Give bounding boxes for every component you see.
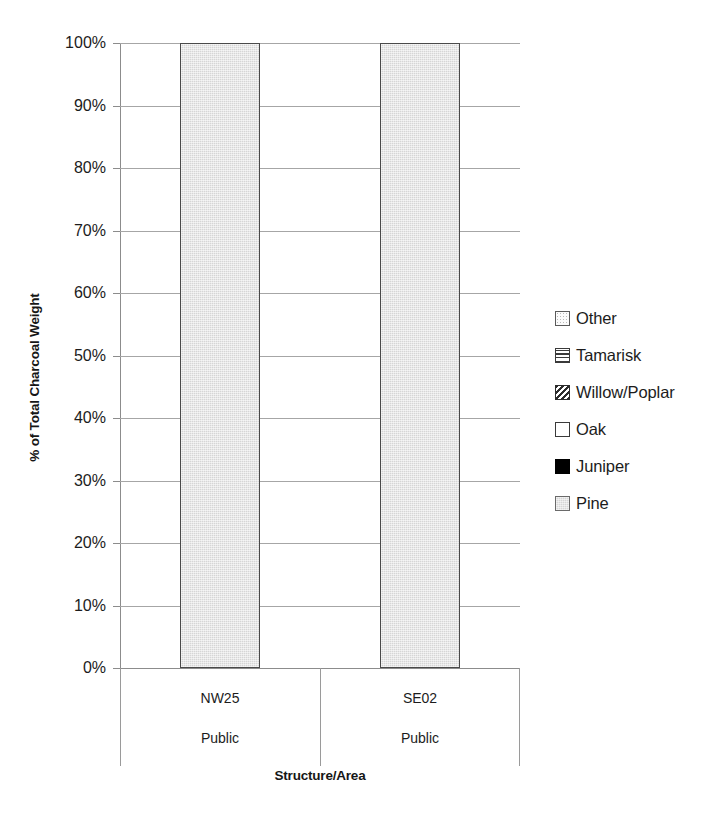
y-axis-tick-mark: [113, 668, 120, 669]
legend-label: Oak: [576, 420, 606, 439]
bar-segment: [380, 43, 460, 668]
y-axis-tick-mark: [113, 543, 120, 544]
y-axis-tick-mark: [113, 418, 120, 419]
legend-label: Other: [576, 309, 617, 328]
legend-item-willow-poplar[interactable]: Willow/Poplar: [555, 374, 675, 411]
y-axis-tick-mark: [113, 606, 120, 607]
y-axis-tick-mark: [113, 293, 120, 294]
y-axis-title: % of Total Charcoal Weight: [27, 258, 42, 498]
category-group: NW25Public: [120, 668, 320, 766]
y-axis-tick-label: 20%: [42, 534, 106, 552]
x-axis-title: Structure/Area: [120, 768, 520, 783]
legend-item-juniper[interactable]: Juniper: [555, 448, 675, 485]
legend-swatch-icon: [555, 496, 570, 511]
category-divider: [320, 668, 321, 766]
legend-label: Pine: [576, 494, 609, 513]
category-label-secondary: Public: [320, 730, 520, 746]
y-axis-tick-label: 30%: [42, 472, 106, 490]
legend-item-oak[interactable]: Oak: [555, 411, 675, 448]
legend-item-tamarisk[interactable]: Tamarisk: [555, 337, 675, 374]
y-axis-tick-label: 10%: [42, 597, 106, 615]
category-label-primary: NW25: [120, 690, 320, 706]
y-axis-tick-label: 100%: [42, 34, 106, 52]
y-axis-tick-mark: [113, 481, 120, 482]
legend-label: Juniper: [576, 457, 629, 476]
bar-segment: [180, 43, 260, 668]
y-axis-tick-mark: [113, 43, 120, 44]
y-axis-tick-label: 0%: [42, 659, 106, 677]
y-axis-tick-label: 50%: [42, 347, 106, 365]
y-axis-tick-mark: [113, 106, 120, 107]
legend-item-pine[interactable]: Pine: [555, 485, 675, 522]
bar-chart: % of Total Charcoal Weight 0%10%20%30%40…: [0, 0, 721, 835]
legend-swatch-icon: [555, 422, 570, 437]
category-label-secondary: Public: [120, 730, 320, 746]
legend-label: Willow/Poplar: [576, 383, 675, 402]
category-axis: NW25PublicSE02Public: [120, 668, 520, 766]
y-axis-tick-label: 90%: [42, 97, 106, 115]
y-axis-tick-label: 70%: [42, 222, 106, 240]
legend-swatch-icon: [555, 348, 570, 363]
y-axis-tick-mark: [113, 231, 120, 232]
legend-swatch-icon: [555, 311, 570, 326]
category-label-primary: SE02: [320, 690, 520, 706]
legend-item-other[interactable]: Other: [555, 300, 675, 337]
category-group: SE02Public: [320, 668, 520, 766]
y-axis-tick-mark: [113, 168, 120, 169]
legend-swatch-icon: [555, 385, 570, 400]
plot-area: [120, 43, 520, 668]
legend: OtherTamariskWillow/PoplarOakJuniperPine: [555, 300, 675, 522]
y-axis-tick-label: 60%: [42, 284, 106, 302]
y-axis-tick-label: 80%: [42, 159, 106, 177]
legend-swatch-icon: [555, 459, 570, 474]
y-axis-tick-mark: [113, 356, 120, 357]
y-axis-tick-label: 40%: [42, 409, 106, 427]
legend-label: Tamarisk: [576, 346, 641, 365]
